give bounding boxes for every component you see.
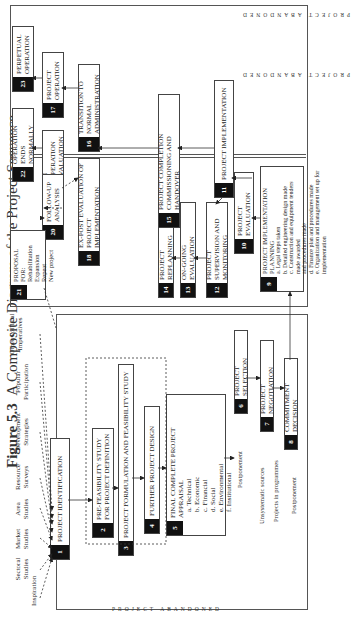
- connectors: [0, 0, 363, 618]
- diagram-canvas: Figure 5.3 A Composite Diagram of the Pr…: [0, 0, 363, 618]
